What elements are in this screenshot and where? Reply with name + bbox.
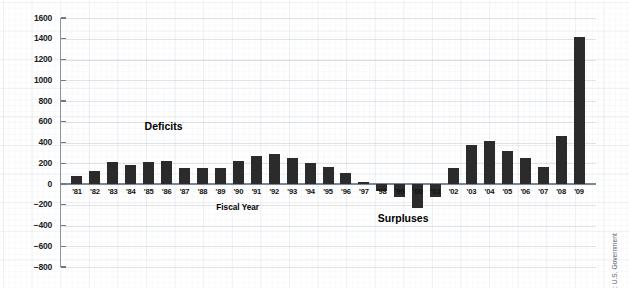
gridline xyxy=(60,80,596,81)
chart-plot-area: −800−600−400−200020040060080010001200140… xyxy=(60,18,596,267)
gridline xyxy=(60,226,596,227)
y-axis-tick xyxy=(61,80,66,81)
annotation-surpluses: Surpluses xyxy=(378,212,429,224)
y-axis-tick xyxy=(61,163,66,164)
y-axis-tick xyxy=(61,225,66,226)
bar xyxy=(233,161,244,184)
y-axis-tick-label: 1200 xyxy=(6,54,52,64)
gridline xyxy=(60,122,596,123)
bar xyxy=(125,165,136,184)
y-axis-tick-label: −400 xyxy=(6,220,52,230)
gridline xyxy=(60,143,596,144)
bar xyxy=(556,136,567,184)
y-axis-tick-label: −800 xyxy=(6,262,52,272)
y-axis-tick-label: 600 xyxy=(6,116,52,126)
bar xyxy=(107,162,118,184)
y-axis-tick-label: 400 xyxy=(6,137,52,147)
bar xyxy=(466,145,477,184)
gridline xyxy=(60,39,596,40)
source-note: SOURCE: Economic Report of the President… xyxy=(611,284,628,288)
y-axis-tick xyxy=(61,246,66,247)
y-axis-tick xyxy=(61,204,66,205)
bar xyxy=(502,151,513,184)
bar xyxy=(269,154,280,184)
y-axis-tick xyxy=(61,266,66,267)
bar xyxy=(538,167,549,184)
y-axis-tick xyxy=(61,121,66,122)
bar xyxy=(161,161,172,184)
source-line-2: Printing Office, 2010). xyxy=(620,284,628,288)
bar xyxy=(358,182,369,184)
x-axis-tick-label: '09 xyxy=(567,187,591,196)
bar xyxy=(305,163,316,184)
source-line-1: SOURCE: Economic Report of the President… xyxy=(611,284,619,288)
y-axis-tick-label: 1600 xyxy=(6,13,52,23)
bar xyxy=(215,168,226,184)
bar xyxy=(484,141,495,184)
bar xyxy=(179,168,190,184)
gridline xyxy=(60,60,596,61)
annotation-deficits: Deficits xyxy=(145,120,183,132)
y-axis-tick-label: 200 xyxy=(6,158,52,168)
bar xyxy=(323,167,334,184)
gridline xyxy=(60,163,596,164)
bar xyxy=(287,158,298,184)
bar xyxy=(71,176,82,184)
bar xyxy=(89,171,100,184)
bar xyxy=(448,168,459,184)
y-axis-tick-label: 1000 xyxy=(6,75,52,85)
gridline xyxy=(60,18,596,19)
y-axis-tick xyxy=(61,100,66,101)
gridline xyxy=(60,267,596,268)
gridline xyxy=(60,246,596,247)
bar xyxy=(251,156,262,184)
bar xyxy=(520,158,531,184)
y-axis-tick-label: 0 xyxy=(6,179,52,189)
gridline xyxy=(60,205,596,206)
bar xyxy=(197,168,208,184)
bar xyxy=(574,37,585,184)
bar xyxy=(340,173,351,184)
y-axis-tick xyxy=(61,183,66,184)
y-axis-tick xyxy=(61,142,66,143)
gridline xyxy=(60,101,596,102)
y-axis-tick-label: −600 xyxy=(6,241,52,251)
y-axis-tick xyxy=(61,38,66,39)
y-axis-tick-label: −200 xyxy=(6,199,52,209)
y-axis-tick xyxy=(61,17,66,18)
bar xyxy=(143,162,154,184)
y-axis-tick-label: 1400 xyxy=(6,33,52,43)
x-axis-title: Fiscal Year xyxy=(216,203,259,212)
y-axis-tick xyxy=(61,59,66,60)
y-axis-tick-label: 800 xyxy=(6,96,52,106)
